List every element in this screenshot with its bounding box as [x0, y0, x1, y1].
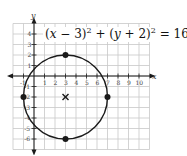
point-marker — [105, 94, 111, 100]
y-tick-label: -6 — [24, 135, 30, 142]
x-tick-label: 8 — [116, 79, 120, 86]
tick-labels: -1123456789104321-1-2-3-4-5-6 — [20, 30, 143, 142]
x-tick-label: 10 — [136, 79, 144, 86]
x-tick-label: 2 — [53, 79, 57, 86]
x-axis-arrow-left — [7, 74, 13, 79]
equation-text: = 16 — [156, 27, 187, 41]
y-tick-label: 3 — [28, 41, 32, 48]
x-tick-label: 1 — [43, 79, 47, 86]
equation-text: − 3) — [56, 27, 86, 41]
x-tick-label: 3 — [64, 79, 68, 86]
equation-label: (x − 3)2 + (y + 2)2 = 16 — [45, 26, 187, 41]
y-tick-label: 2 — [28, 51, 32, 58]
y-axis-label: y — [30, 11, 36, 20]
x-tick-label: 6 — [95, 79, 99, 86]
x-tick-label: 9 — [127, 79, 131, 86]
point-marker — [21, 94, 27, 100]
equation-text: + 2) — [121, 27, 151, 41]
point-marker — [63, 136, 69, 142]
x-tick-label: 5 — [85, 79, 89, 86]
y-axis-arrow-down — [32, 150, 37, 156]
x-tick-label: 7 — [106, 79, 110, 86]
equation-text: + ( — [92, 27, 114, 41]
x-axis-label: x — [152, 72, 157, 81]
circle-graph: -1123456789104321-1-2-3-4-5-6 (x − 3)2 +… — [0, 0, 187, 155]
y-tick-label: 1 — [28, 62, 32, 69]
point-marker — [63, 52, 69, 58]
y-tick-label: 4 — [28, 30, 32, 37]
y-tick-label: -5 — [24, 125, 30, 132]
x-tick-label: 4 — [74, 79, 78, 86]
